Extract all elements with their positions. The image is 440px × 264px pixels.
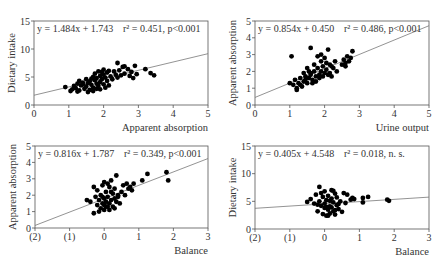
y-tick-label: 5: [26, 141, 31, 152]
data-point: [117, 201, 122, 206]
x-tick-label: 1: [357, 232, 362, 243]
data-point: [103, 85, 108, 90]
data-point: [317, 185, 322, 190]
data-point: [324, 67, 329, 72]
data-point: [164, 170, 169, 175]
data-point: [94, 86, 99, 91]
data-point: [345, 192, 350, 197]
x-tick-label: 2: [101, 108, 106, 119]
data-point: [312, 62, 317, 67]
data-point: [319, 59, 324, 64]
x-tick-label: 2: [171, 231, 176, 242]
data-point: [131, 76, 136, 81]
data-point: [63, 85, 68, 90]
y-tick-label: 1: [246, 83, 251, 94]
data-point: [86, 90, 91, 95]
regression-stats: r² = 0.486, p<0.001: [344, 23, 422, 34]
x-tick-label: 2: [322, 108, 327, 119]
data-point: [314, 79, 319, 84]
x-tick-label: 0: [322, 232, 327, 243]
y-tick-label: 0: [246, 224, 251, 235]
x-axis-label: Balance: [395, 246, 429, 257]
data-point: [100, 194, 105, 199]
scatter-panel-dietary-vs-balance: (2)(1)0123051015 y = 0.405x + 4.548 r² =…: [227, 141, 432, 258]
regression-stats: r² = 0.349, p<0.001: [124, 148, 202, 159]
regression-equation: y = 0.816x + 1.787: [38, 148, 114, 159]
data-point: [109, 190, 114, 195]
x-tick-label: 0: [102, 231, 107, 242]
y-tick-label: 3: [246, 49, 251, 60]
data-point: [91, 211, 96, 216]
data-point: [298, 82, 303, 87]
x-tick-label: 3: [136, 108, 141, 119]
data-point: [152, 73, 157, 78]
y-axis-label: Dietary intake: [227, 157, 238, 217]
y-axis-label: Apparent absorption: [227, 19, 238, 106]
data-point: [315, 209, 320, 214]
regression-equation: y = 0.854x + 0.450: [258, 23, 334, 34]
y-tick-label: 5: [246, 196, 251, 207]
data-point: [129, 70, 134, 75]
x-axis-label: Balance: [174, 245, 208, 256]
data-point: [320, 64, 325, 69]
data-point: [117, 68, 122, 73]
y-tick-label: 0: [26, 223, 31, 234]
data-point: [352, 197, 357, 202]
y-tick-label: 3: [26, 173, 31, 184]
y-tick-label: 0: [246, 100, 251, 111]
data-point: [333, 208, 338, 213]
data-point: [308, 72, 313, 77]
data-point: [105, 181, 110, 186]
data-point: [301, 71, 306, 76]
data-point: [116, 194, 121, 199]
data-point: [291, 82, 296, 87]
data-point: [327, 71, 332, 76]
regression-line: [255, 26, 429, 98]
x-tick-label: (1): [64, 231, 76, 243]
y-tick-label: 0: [25, 100, 30, 111]
data-point: [331, 188, 336, 193]
data-point: [289, 54, 294, 59]
data-point: [329, 64, 334, 69]
scatter-panel-absorption-vs-urine: 012345012345 y = 0.854x + 0.450 r² = 0.4…: [227, 16, 432, 134]
data-point: [343, 64, 348, 69]
data-point: [324, 204, 329, 209]
x-tick-label: 3: [206, 231, 211, 242]
x-tick-label: (1): [284, 232, 296, 244]
data-point: [122, 71, 127, 76]
figure: 012345051015 y = 1.484x + 1.743 r² = 0.4…: [0, 0, 440, 264]
x-tick-label: 3: [427, 232, 432, 243]
data-point: [104, 204, 109, 209]
scatter-panel-absorption-vs-balance: (2)(1)0123012345 y = 0.816x + 1.787 r² =…: [7, 141, 211, 257]
y-tick-label: 10: [20, 44, 30, 55]
data-point: [99, 70, 104, 75]
data-point: [312, 69, 317, 74]
data-point: [145, 171, 150, 176]
data-point: [333, 212, 338, 217]
y-tick-label: 15: [20, 16, 30, 27]
data-point: [122, 64, 127, 69]
data-point: [366, 195, 371, 200]
data-point: [350, 49, 355, 54]
data-point: [319, 191, 324, 196]
data-point: [334, 69, 339, 74]
data-point: [360, 196, 365, 201]
x-tick-label: 3: [357, 108, 362, 119]
data-point: [298, 76, 303, 81]
data-point: [315, 202, 320, 207]
y-tick-label: 15: [241, 141, 251, 152]
data-point: [348, 56, 353, 61]
data-point: [320, 74, 325, 79]
data-point: [88, 199, 93, 204]
data-point: [387, 198, 392, 203]
data-point: [308, 45, 313, 50]
y-tick-label: 5: [246, 16, 251, 27]
x-tick-label: 4: [171, 108, 176, 119]
data-point: [326, 213, 331, 218]
regression-stats: r² = 0.018, n. s.: [344, 148, 405, 159]
data-point: [166, 178, 171, 183]
x-tick-label: 1: [66, 108, 71, 119]
data-point: [322, 56, 327, 61]
data-point: [112, 206, 117, 211]
x-tick-label: 1: [136, 231, 141, 242]
